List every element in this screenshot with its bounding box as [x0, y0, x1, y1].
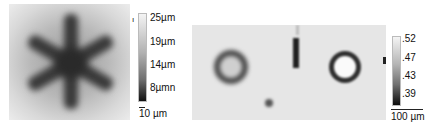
colorbar-tick-8: 8µmn	[150, 83, 175, 93]
colorbar-tick-14: 14µm	[150, 60, 175, 70]
left-panel: ı 25µm 19µm 14µm 8µmn 10 µm	[0, 0, 180, 133]
star-center	[55, 48, 87, 78]
colorbar-tick-25: 25µm	[150, 13, 175, 23]
edge-dark-mark	[383, 57, 386, 64]
right-colorbar	[392, 36, 401, 106]
left-ring	[214, 50, 248, 84]
left-scale-bar-label: 10 µm	[139, 109, 167, 119]
right-ring	[329, 51, 361, 83]
ring-features-image	[192, 25, 386, 120]
right-panel: .52 .47 .43 .39 100 µm	[180, 0, 432, 133]
vertical-streak	[293, 38, 299, 68]
colorbar-tick-52: .52	[402, 34, 416, 44]
streak-top	[296, 25, 299, 35]
colorbar-tick-43: .43	[402, 71, 416, 81]
colorbar-tick-47: .47	[402, 53, 416, 63]
colorbar-tick-39: .39	[402, 89, 416, 99]
colorbar-top-marker: ı	[132, 15, 134, 25]
right-scale-bar	[391, 109, 423, 110]
colorbar-tick-19: 19µm	[150, 37, 175, 47]
small-dark-spot	[265, 99, 273, 107]
star-structure-image	[9, 4, 130, 120]
right-scale-bar-label: 100 µm	[391, 112, 425, 122]
left-colorbar	[138, 13, 147, 102]
